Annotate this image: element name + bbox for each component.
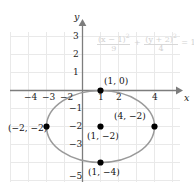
equation-x-numerator: (x − 1) bbox=[98, 35, 126, 44]
point-1-neg4 bbox=[97, 159, 103, 165]
x-tick-neg2: −2 bbox=[60, 93, 73, 102]
point-label-1-neg4: (1, −4) bbox=[88, 168, 120, 177]
ellipse-equation: (x − 1)2 9 + (y + 2)2 4 = 1 bbox=[96, 33, 194, 53]
y-axis bbox=[79, 19, 87, 182]
y-tick-2: 2 bbox=[73, 50, 79, 59]
point-4-neg2 bbox=[151, 123, 157, 129]
x-tick-2: 2 bbox=[116, 93, 122, 102]
y-tick-1: 1 bbox=[73, 68, 79, 77]
y-tick-neg2: −2 bbox=[69, 122, 82, 131]
point-1-neg2 bbox=[97, 123, 103, 129]
x-axis-label: x bbox=[184, 93, 189, 103]
ellipse-graph-figure: (x − 1)2 9 + (y + 2)2 4 = 1 y x −4 −3 −2… bbox=[0, 0, 194, 183]
point-label-1-neg2: (1, −2) bbox=[87, 132, 119, 141]
y-axis-label: y bbox=[74, 12, 79, 22]
equation-y-denominator: 4 bbox=[144, 45, 177, 53]
y-tick-neg3: −3 bbox=[69, 140, 82, 149]
x-tick-neg3: −3 bbox=[42, 93, 55, 102]
point-label-1-0: (1, 0) bbox=[104, 77, 128, 86]
x-tick-neg4: −4 bbox=[24, 93, 37, 102]
equation-term-x: (x − 1)2 9 bbox=[97, 33, 130, 53]
equation-equals-one: = 1 bbox=[181, 39, 194, 47]
equation-x-exponent: 2 bbox=[126, 32, 130, 39]
equation-y-exponent: 2 bbox=[173, 32, 177, 39]
point-label-4-neg2: (4, −2) bbox=[114, 112, 146, 121]
equation-x-denominator: 9 bbox=[97, 45, 130, 53]
equation-plus-sign: + bbox=[134, 39, 141, 47]
y-tick-neg1: −1 bbox=[69, 104, 82, 113]
point-label-neg2-neg2: (−2, −2) bbox=[8, 124, 47, 133]
x-tick-1: 1 bbox=[98, 93, 104, 102]
equation-term-y: (y + 2)2 4 bbox=[144, 33, 177, 53]
y-tick-3: 3 bbox=[73, 32, 79, 41]
y-tick-neg5: −5 bbox=[69, 172, 82, 181]
x-tick-4: 4 bbox=[152, 93, 158, 102]
equation-y-numerator: (y + 2) bbox=[145, 35, 173, 44]
